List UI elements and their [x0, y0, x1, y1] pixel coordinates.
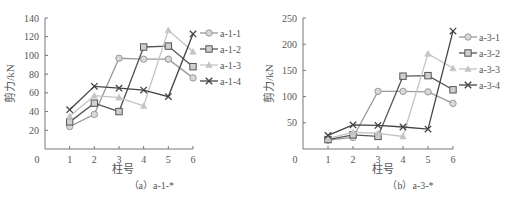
x-tick-label: 5	[426, 154, 431, 165]
legend-label: a-1-3	[220, 60, 241, 71]
y-tick-label: 140	[24, 13, 39, 24]
data-point-a-1-1	[165, 56, 171, 62]
y-tick-label: 80	[29, 69, 39, 80]
y-tick-label: 40	[29, 106, 39, 117]
legend-label: a-3-4	[479, 80, 500, 91]
data-point-a-3-3	[450, 65, 456, 71]
data-point-a-3-1	[400, 88, 406, 94]
data-point-a-3-2	[425, 72, 431, 78]
data-point-a-1-4	[66, 107, 72, 113]
data-point-a-1-2	[91, 100, 97, 106]
x-tick-label: 4	[401, 154, 406, 165]
y-tick-label: 60	[29, 87, 39, 98]
data-point-a-1-1	[190, 75, 196, 81]
data-point-a-3-3	[425, 50, 431, 56]
y-tick-label: 100	[282, 91, 297, 102]
axes: 204060801001201400123456	[24, 13, 196, 166]
legend-label: a-3-1	[479, 32, 500, 43]
y-tick-label: 150	[282, 65, 297, 76]
y-axis-title: 剪力/kN	[263, 64, 275, 103]
series-line-a-1-2	[70, 46, 193, 122]
series-line-a-1-4	[70, 34, 193, 110]
data-point-a-1-2	[66, 119, 72, 125]
chart-caption: （a）a-1-*	[129, 180, 175, 191]
data-point-a-3-1	[375, 88, 381, 94]
x-axis-title: 柱号	[112, 162, 134, 175]
legend-item-a-1-3: a-1-3	[200, 60, 241, 71]
data-point-a-3-2	[450, 87, 456, 93]
data-point-a-1-2	[140, 44, 146, 50]
data-point-a-1-3	[165, 27, 171, 33]
x-tick-label: 0	[35, 154, 40, 165]
series-a-1-1	[66, 55, 196, 130]
series-a-1-2	[66, 43, 196, 125]
data-point-a-1-2	[116, 108, 122, 114]
data-point-a-1-2	[190, 63, 196, 69]
series-a-1-3	[66, 27, 196, 119]
series-a-1-4	[66, 31, 196, 113]
x-tick-label: 2	[351, 154, 356, 165]
legend-label: a-3-2	[479, 48, 500, 59]
y-tick-label: 200	[282, 39, 297, 50]
series-a-3-2	[325, 72, 456, 142]
legend-label: a-1-4	[220, 76, 241, 87]
legend-item-a-3-3: a-3-3	[459, 64, 500, 75]
chart-a3: 501001502002500123456剪力/kN柱号（b）a-3-*a-3-…	[263, 0, 526, 201]
data-point-a-3-1	[450, 100, 456, 106]
data-point-a-3-2	[400, 73, 406, 79]
y-tick-label: 20	[29, 125, 39, 136]
x-tick-label: 1	[326, 154, 331, 165]
series-line-a-1-3	[70, 30, 193, 116]
chart-a1: 204060801001201400123456剪力/kN柱号（a）a-1-*a…	[0, 0, 263, 201]
x-tick-label: 0	[293, 154, 298, 165]
data-point-a-1-1	[140, 56, 146, 62]
x-tick-label: 2	[92, 154, 97, 165]
x-tick-label: 6	[451, 154, 456, 165]
data-point-a-1-1	[91, 111, 97, 117]
y-tick-label: 100	[24, 50, 39, 61]
legend-label: a-1-1	[220, 28, 241, 39]
legend-marker	[206, 46, 212, 52]
legend-marker	[465, 50, 471, 56]
x-tick-label: 4	[141, 154, 146, 165]
series-line-a-3-4	[328, 31, 453, 135]
legend-item-a-1-1: a-1-1	[200, 28, 241, 39]
legend-marker	[465, 34, 471, 40]
legend-item-a-1-4: a-1-4	[200, 76, 241, 87]
legend-item-a-3-4: a-3-4	[459, 80, 500, 91]
y-tick-label: 120	[24, 31, 39, 42]
legend-label: a-1-2	[220, 44, 241, 55]
chart-caption: （b）a-3-*	[387, 180, 433, 191]
y-tick-label: 50	[287, 117, 297, 128]
legend-item-a-3-1: a-3-1	[459, 32, 500, 43]
legend-item-a-1-2: a-1-2	[200, 44, 241, 55]
data-point-a-3-1	[425, 89, 431, 95]
series-line-a-3-2	[328, 76, 453, 140]
legend-label: a-3-3	[479, 64, 500, 75]
data-point-a-1-2	[165, 43, 171, 49]
x-axis-title: 柱号	[372, 162, 394, 175]
series-a-3-4	[325, 28, 456, 139]
data-point-a-1-4	[190, 31, 196, 37]
x-tick-label: 6	[191, 154, 196, 165]
series-line-a-3-1	[328, 91, 453, 140]
y-tick-label: 250	[282, 13, 297, 24]
x-tick-label: 1	[67, 154, 72, 165]
y-axis-title: 剪力/kN	[3, 64, 16, 103]
legend-marker	[206, 30, 212, 36]
data-point-a-1-1	[116, 55, 122, 61]
legend-item-a-3-2: a-3-2	[459, 48, 500, 59]
x-tick-label: 5	[166, 154, 171, 165]
